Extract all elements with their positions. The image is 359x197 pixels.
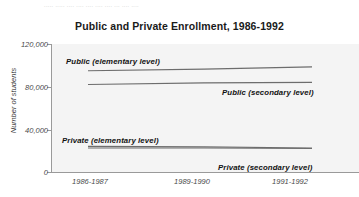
chart-figure: ..... ..... .... .... .... .... .... ...… bbox=[0, 0, 359, 197]
series-label-public-secondary: Public (secondary level) bbox=[222, 88, 314, 97]
series-line-private-secondary bbox=[88, 148, 312, 149]
series-line-public-elementary bbox=[88, 67, 312, 71]
series-label-private-secondary: Private (secondary level) bbox=[218, 163, 312, 172]
series-label-private-elementary: Private (elementary level) bbox=[62, 136, 159, 145]
series-line-public-secondary bbox=[88, 82, 312, 84]
series-label-public-elementary: Public (elementary level) bbox=[66, 57, 160, 66]
